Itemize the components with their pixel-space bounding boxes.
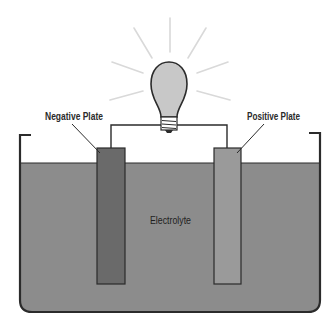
light-bulb-icon bbox=[151, 62, 187, 133]
ray bbox=[134, 28, 152, 58]
electrolyte-label: Electrolyte bbox=[150, 215, 191, 226]
ray bbox=[112, 62, 143, 73]
ray bbox=[188, 28, 206, 58]
ray bbox=[197, 91, 230, 100]
negative-plate bbox=[97, 148, 125, 284]
ray bbox=[197, 62, 228, 73]
negative-plate-leader bbox=[72, 124, 100, 153]
negative-plate-label: Negative Plate bbox=[45, 110, 103, 122]
positive-plate-label: Positive Plate bbox=[247, 110, 300, 122]
bulb-glass bbox=[151, 62, 187, 117]
positive-plate-leader bbox=[237, 124, 264, 153]
ray bbox=[110, 91, 143, 100]
battery-cell-diagram: Negative Plate Positive Plate Electrolyt… bbox=[0, 0, 336, 329]
bulb-tip bbox=[165, 130, 173, 133]
positive-plate bbox=[214, 148, 241, 284]
electrolyte bbox=[20, 163, 320, 312]
